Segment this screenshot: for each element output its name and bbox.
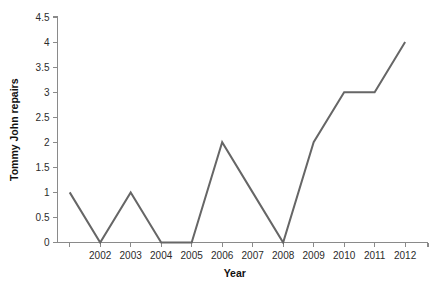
y-axis-title: Tommy John repairs — [8, 78, 20, 181]
x-axis: 2002200320042005200620072008200920102011… — [58, 243, 429, 261]
y-tick-label: 3 — [44, 87, 50, 98]
x-axis-title: Year — [224, 267, 246, 279]
x-tick-label: 2002 — [89, 250, 112, 261]
x-tick-label: 2008 — [272, 250, 295, 261]
y-tick-label: 4.5 — [36, 12, 50, 23]
y-tick-label: 2 — [44, 137, 50, 148]
x-tick-label: 2011 — [364, 250, 386, 261]
y-axis: 00.511.522.533.544.5 — [36, 12, 58, 249]
x-tick-label: 2003 — [120, 250, 143, 261]
y-tick-label: 4 — [44, 37, 50, 48]
chart-canvas: 00.511.522.533.544.5 2002200320042005200… — [0, 0, 436, 292]
x-tick-label: 2007 — [242, 250, 265, 261]
y-tick-label: 3.5 — [36, 62, 50, 73]
line-chart: 00.511.522.533.544.5 2002200320042005200… — [0, 0, 436, 292]
y-tick-label: 0 — [44, 237, 50, 248]
y-tick-label: 1.5 — [36, 162, 50, 173]
y-tick-label: 2.5 — [36, 112, 50, 123]
x-tick-label: 2006 — [211, 250, 234, 261]
y-tick-label: 1 — [44, 187, 50, 198]
x-tick-label: 2009 — [303, 250, 326, 261]
data-series — [70, 42, 405, 242]
y-tick-label: 0.5 — [36, 212, 50, 223]
x-tick-label: 2010 — [333, 250, 356, 261]
x-tick-label: 2004 — [150, 250, 173, 261]
x-tick-label: 2005 — [181, 250, 204, 261]
x-tick-label: 2012 — [394, 250, 417, 261]
series-line-tommy-john-repairs — [70, 42, 405, 242]
